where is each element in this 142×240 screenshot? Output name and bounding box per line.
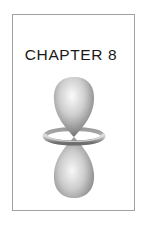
chapter-heading: CHAPTER 8	[0, 46, 142, 64]
dz2-orbital-icon	[40, 74, 108, 202]
